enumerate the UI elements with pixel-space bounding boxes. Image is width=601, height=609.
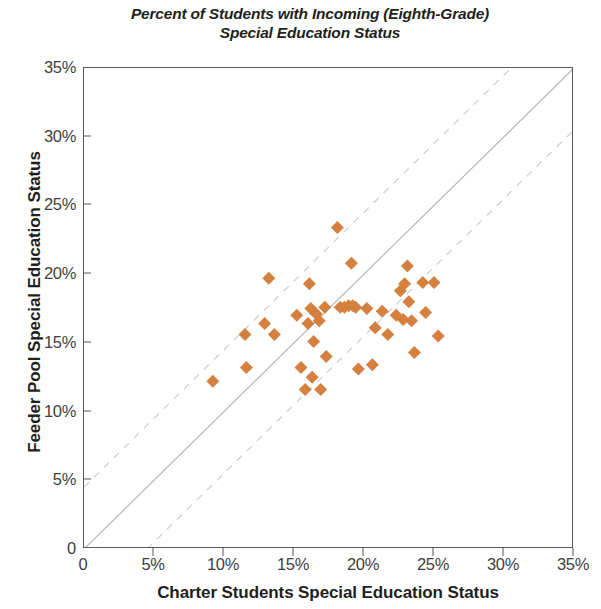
x-axis-tick-label: 5% <box>113 555 193 574</box>
x-axis-tick-mark <box>433 548 434 556</box>
x-axis-tick-mark <box>293 548 294 556</box>
x-axis-tick-mark <box>363 548 364 556</box>
x-axis-tick-label: 0 <box>43 555 123 574</box>
x-axis-tick-mark <box>153 548 154 556</box>
x-axis-tick-layer: 05%10%15%20%25%30%35% <box>0 0 601 609</box>
y-axis-tick-mark <box>83 479 91 480</box>
y-axis-tick-mark <box>83 135 91 136</box>
x-axis-tick-label: 35% <box>533 555 601 574</box>
y-axis-tick-mark <box>83 273 91 274</box>
x-axis-tick-mark <box>223 548 224 556</box>
y-axis-tick-mark <box>83 341 91 342</box>
y-axis-tick-mark <box>83 204 91 205</box>
scatter-plot-figure: Percent of Students with Incoming (Eight… <box>0 0 601 609</box>
x-axis-tick-label: 25% <box>393 555 473 574</box>
x-axis-tick-label: 30% <box>463 555 543 574</box>
y-axis-tick-mark <box>83 410 91 411</box>
x-axis-tick-label: 15% <box>253 555 333 574</box>
x-axis-tick-mark <box>573 548 574 556</box>
x-axis-tick-label: 10% <box>183 555 263 574</box>
x-axis-title: Charter Students Special Education Statu… <box>83 583 573 603</box>
y-axis-title: Feeder Pool Special Education Status <box>25 62 45 542</box>
x-axis-tick-label: 20% <box>323 555 403 574</box>
x-axis-tick-mark <box>503 548 504 556</box>
